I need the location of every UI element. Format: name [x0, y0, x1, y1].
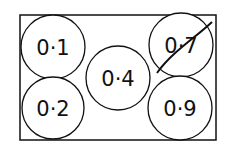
circle-label: 0·1 — [36, 36, 69, 60]
circle-label: 0·2 — [36, 97, 69, 121]
circle-label: 0·9 — [163, 97, 196, 121]
circle-0-4: 0·4 — [86, 46, 150, 110]
diagram-canvas: 0·1 0·2 0·4 0·7 0·9 — [0, 0, 229, 147]
circle-0-1: 0·1 — [21, 15, 85, 79]
circle-0-7: 0·7 — [149, 13, 213, 77]
circle-0-2: 0·2 — [22, 77, 84, 139]
circle-label: 0·4 — [101, 67, 134, 91]
circle-0-9: 0·9 — [148, 76, 212, 140]
